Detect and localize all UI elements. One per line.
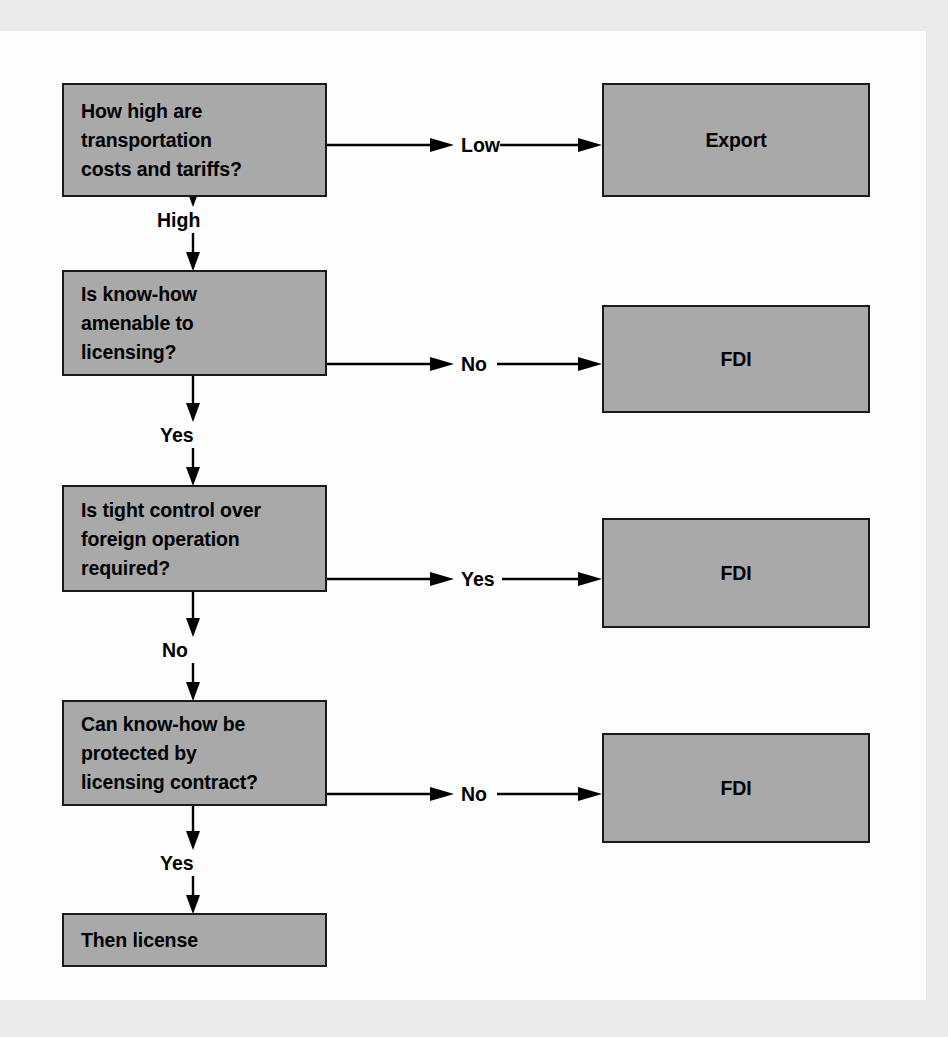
decision-node-knowhow-protection[interactable]: Can know-how be protected by licensing c…: [62, 700, 327, 806]
edge-label-q4-yes: Yes: [160, 852, 194, 875]
decision-node-knowhow-licensing[interactable]: Is know-how amenable to licensing?: [62, 270, 327, 376]
edge-label-q2-yes: Yes: [160, 424, 194, 447]
page-mat: How high are transportation costs and ta…: [0, 0, 948, 1037]
decision-node-transport-costs-label: How high are transportation costs and ta…: [81, 97, 242, 184]
decision-node-knowhow-licensing-label: Is know-how amenable to licensing?: [81, 280, 197, 367]
outcome-node-fdi-1-label: FDI: [604, 345, 868, 374]
outcome-node-fdi-2-label: FDI: [604, 559, 868, 588]
outcome-node-then-license-label: Then license: [81, 926, 198, 955]
decision-node-transport-costs[interactable]: How high are transportation costs and ta…: [62, 83, 327, 197]
outcome-node-fdi-2[interactable]: FDI: [602, 518, 870, 628]
decision-node-tight-control-label: Is tight control over foreign operation …: [81, 495, 261, 582]
outcome-node-fdi-1[interactable]: FDI: [602, 305, 870, 413]
edge-label-q2-no: No: [461, 353, 487, 376]
edge-label-q4-no: No: [461, 783, 487, 806]
outcome-node-export-label: Export: [604, 126, 868, 155]
diagram-page: How high are transportation costs and ta…: [0, 31, 926, 1000]
outcome-node-fdi-3-label: FDI: [604, 774, 868, 803]
outcome-node-then-license[interactable]: Then license: [62, 913, 327, 967]
edge-label-q3-no: No: [162, 639, 188, 662]
edge-label-q3-yes: Yes: [461, 568, 495, 591]
flowchart: How high are transportation costs and ta…: [0, 31, 926, 1000]
decision-node-knowhow-protection-label: Can know-how be protected by licensing c…: [81, 710, 258, 797]
outcome-node-export[interactable]: Export: [602, 83, 870, 197]
outcome-node-fdi-3[interactable]: FDI: [602, 733, 870, 843]
edge-label-q1-low: Low: [461, 134, 500, 157]
edge-label-q1-high: High: [157, 209, 200, 232]
decision-node-tight-control[interactable]: Is tight control over foreign operation …: [62, 485, 327, 592]
